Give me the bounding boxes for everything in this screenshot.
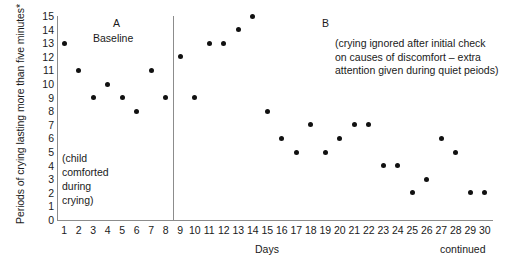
y-tick-12: 12 xyxy=(10,52,54,63)
data-point-day-1 xyxy=(62,41,67,46)
phase-a-note-line-3: during xyxy=(62,179,162,193)
data-point-day-23 xyxy=(381,163,386,168)
phase-a-letter: A xyxy=(113,17,120,29)
phase-a-note-line-1: (child xyxy=(62,151,162,165)
data-point-day-19 xyxy=(323,150,328,155)
data-point-day-12 xyxy=(221,41,226,46)
data-point-day-30 xyxy=(482,190,487,195)
phase-a-subtitle: Baseline xyxy=(93,32,133,44)
data-point-day-7 xyxy=(149,68,154,73)
phase-a-note: (child comforted during crying) xyxy=(62,151,162,207)
y-tick-2: 2 xyxy=(10,188,54,199)
y-tick-13: 13 xyxy=(10,38,54,49)
y-tick-14: 14 xyxy=(10,25,54,36)
data-point-day-28 xyxy=(453,150,458,155)
crying-periods-scatter-chart: Periods of crying lasting more than five… xyxy=(0,0,506,278)
y-tick-15: 15 xyxy=(10,11,54,22)
y-tick-11: 11 xyxy=(10,65,54,76)
continued-label: continued xyxy=(440,243,486,255)
data-point-day-5 xyxy=(120,95,125,100)
y-tick-10: 10 xyxy=(10,79,54,90)
data-point-day-8 xyxy=(163,95,168,100)
data-point-day-18 xyxy=(308,122,313,127)
data-point-day-27 xyxy=(439,136,444,141)
y-tick-4: 4 xyxy=(10,161,54,172)
data-point-day-2 xyxy=(76,68,81,73)
data-point-day-13 xyxy=(236,27,241,32)
data-point-day-20 xyxy=(337,136,342,141)
phase-a-note-line-2: comforted xyxy=(62,165,162,179)
y-axis-tick-labels: 1514131211109876543210 xyxy=(8,0,54,278)
x-axis-title: Days xyxy=(255,243,279,255)
x-tick-30: 30 xyxy=(474,224,496,236)
data-point-day-17 xyxy=(294,150,299,155)
y-tick-1: 1 xyxy=(10,201,54,212)
phase-b-note: (crying ignored after initial check on c… xyxy=(335,37,500,78)
data-point-day-3 xyxy=(91,95,96,100)
data-point-day-4 xyxy=(105,82,110,87)
y-tick-9: 9 xyxy=(10,93,54,104)
y-tick-0: 0 xyxy=(10,215,54,226)
phase-b-letter: B xyxy=(322,17,329,29)
data-point-day-26 xyxy=(424,177,429,182)
data-point-day-24 xyxy=(395,163,400,168)
data-point-day-22 xyxy=(366,122,371,127)
data-point-day-6 xyxy=(134,109,139,114)
phase-a-note-line-4: crying) xyxy=(62,193,162,207)
data-point-day-14 xyxy=(250,14,255,19)
y-tick-8: 8 xyxy=(10,106,54,117)
data-point-day-11 xyxy=(207,41,212,46)
y-tick-7: 7 xyxy=(10,120,54,131)
x-axis-line xyxy=(57,220,493,221)
data-point-day-15 xyxy=(265,109,270,114)
x-axis-tick-labels: 1234567891011121314151617181920212223242… xyxy=(57,224,493,238)
y-tick-5: 5 xyxy=(10,147,54,158)
y-tick-3: 3 xyxy=(10,174,54,185)
data-point-day-16 xyxy=(279,136,284,141)
y-tick-6: 6 xyxy=(10,133,54,144)
data-point-day-29 xyxy=(468,190,473,195)
data-point-day-10 xyxy=(192,95,197,100)
data-point-day-9 xyxy=(178,54,183,59)
data-point-day-21 xyxy=(352,122,357,127)
data-point-day-25 xyxy=(410,190,415,195)
